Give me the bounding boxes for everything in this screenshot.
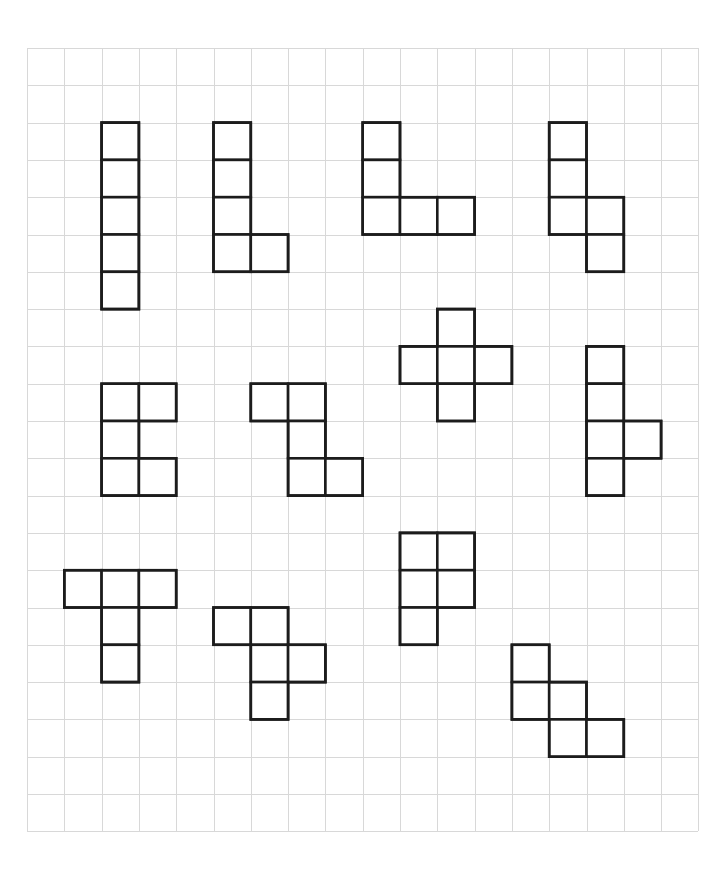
worksheet-page — [0, 0, 726, 887]
graph-paper-grid — [0, 0, 726, 887]
grid-lines — [27, 48, 699, 832]
